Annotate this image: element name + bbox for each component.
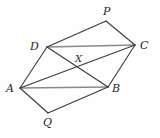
segment-PC bbox=[106, 21, 135, 45]
vertex-label-P: P bbox=[103, 6, 110, 17]
segment-QB bbox=[48, 87, 108, 113]
segment-AD bbox=[20, 47, 47, 88]
vertex-label-X: X bbox=[75, 54, 82, 64]
geometry-lines bbox=[0, 0, 160, 138]
segment-AQ bbox=[20, 88, 48, 113]
vertex-label-D: D bbox=[30, 41, 39, 52]
segment-AB bbox=[20, 87, 108, 88]
segment-BC bbox=[108, 45, 135, 87]
geometry-figure: P D C X A B Q bbox=[0, 0, 160, 138]
vertex-label-C: C bbox=[140, 40, 148, 51]
segment-DP bbox=[47, 21, 106, 47]
vertex-label-A: A bbox=[6, 83, 14, 94]
vertex-label-Q: Q bbox=[43, 117, 52, 128]
segment-DC bbox=[47, 45, 135, 47]
segment-layer bbox=[20, 21, 135, 113]
vertex-label-B: B bbox=[112, 83, 120, 94]
